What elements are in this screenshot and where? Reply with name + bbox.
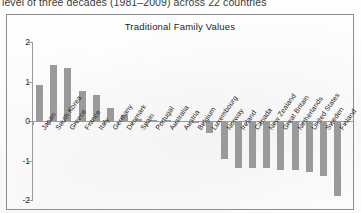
x-axis-label: Italy (97, 116, 110, 131)
x-axis-label: Japan (40, 111, 57, 131)
x-axis-labels: JapanSouth KoreaGreeceFranceItalyGermany… (0, 0, 361, 213)
